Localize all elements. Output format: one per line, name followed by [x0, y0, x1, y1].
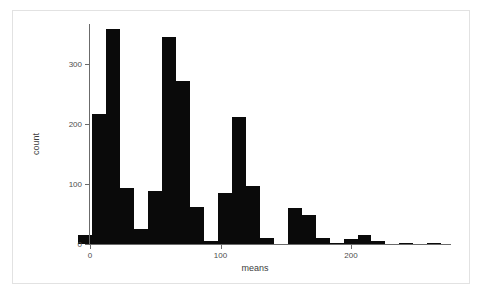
x-tick-mark: [221, 245, 222, 249]
x-axis-line: [89, 244, 451, 245]
y-tick-label: 300: [69, 60, 82, 69]
histogram-bar: [120, 188, 134, 244]
histogram-bar: [246, 186, 260, 244]
x-tick-mark: [351, 245, 352, 249]
histogram-bar: [232, 117, 246, 244]
x-tick-label: 0: [88, 251, 92, 260]
histogram-bar: [302, 215, 316, 244]
x-tick-label: 100: [214, 251, 227, 260]
histogram-bars: [0, 0, 484, 296]
y-tick-label: 100: [69, 180, 82, 189]
y-tick-mark: [85, 244, 89, 245]
y-tick-mark: [85, 124, 89, 125]
y-axis-title: count: [31, 133, 41, 155]
histogram-bar: [176, 81, 190, 244]
histogram-bar: [106, 29, 120, 244]
x-tick-mark: [90, 245, 91, 249]
y-tick-mark: [85, 184, 89, 185]
x-tick-label: 200: [344, 251, 357, 260]
histogram-bar: [134, 229, 148, 244]
y-tick-label: 200: [69, 120, 82, 129]
histogram-bar: [358, 235, 372, 244]
histogram-bar: [148, 191, 162, 244]
x-axis-title: means: [241, 263, 268, 273]
histogram-screenshot: 0100200300 0100200 means count: [0, 0, 484, 296]
y-tick-label: 0: [78, 240, 82, 249]
histogram-bar: [288, 208, 302, 244]
histogram-bar: [92, 114, 106, 244]
histogram-bar: [190, 207, 204, 244]
histogram-bar: [162, 37, 176, 244]
histogram-bar: [218, 193, 232, 244]
y-axis-line: [89, 24, 90, 245]
y-tick-mark: [85, 64, 89, 65]
plot-area: 0100200300 0100200 means count: [0, 0, 484, 296]
